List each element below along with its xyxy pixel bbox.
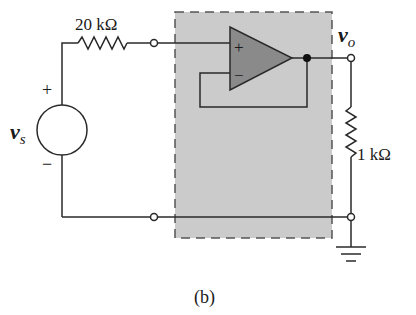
resistor-1k-label: 1 kΩ bbox=[357, 145, 391, 164]
input-terminal bbox=[151, 40, 158, 47]
output-label: vo bbox=[338, 22, 356, 50]
opamp-plus-input: + bbox=[234, 38, 244, 57]
opamp-minus-input: − bbox=[234, 66, 244, 85]
figure-caption: (b) bbox=[194, 287, 215, 308]
resistor-20k bbox=[78, 37, 127, 49]
ground-terminal-right bbox=[348, 214, 355, 221]
source-label: vs bbox=[10, 119, 26, 147]
output-terminal bbox=[348, 55, 355, 62]
resistor-20k-label: 20 kΩ bbox=[75, 15, 117, 34]
source-minus-sign: − bbox=[42, 154, 52, 174]
output-junction-dot bbox=[303, 54, 311, 62]
circuit-diagram: 20 kΩ 1 kΩ + − vs + − vo (b) bbox=[0, 0, 416, 315]
ground-icon bbox=[336, 247, 366, 261]
resistor-1k bbox=[346, 107, 356, 157]
voltage-source bbox=[37, 105, 87, 155]
ground-terminal-left bbox=[151, 214, 158, 221]
source-top-wire bbox=[62, 43, 78, 105]
source-plus-sign: + bbox=[42, 80, 52, 100]
